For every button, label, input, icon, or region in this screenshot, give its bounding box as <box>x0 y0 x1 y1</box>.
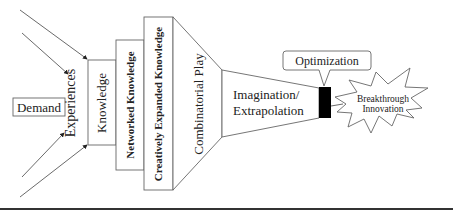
input-arrow-2 <box>22 33 68 74</box>
optimization-label: Optimization <box>295 54 358 68</box>
breakthrough-label-line1: Breakthrough <box>357 94 409 104</box>
block-to-star-connector <box>331 104 343 106</box>
demand-label: Demand <box>17 100 62 115</box>
imagination-label-line1: Imagination/ <box>233 87 300 102</box>
breakthrough-label-line2: Innovation <box>362 104 403 114</box>
combinatorial-play-label: Combinatorial Play <box>191 53 206 155</box>
creatively-expanded-knowledge-label: Creatively Expanded Knowledge <box>152 27 164 182</box>
input-arrow-3 <box>22 133 64 177</box>
innovation-funnel-diagram: Demand Experiences Knowledge Networked K… <box>0 0 453 210</box>
bottom-rule <box>0 208 453 210</box>
experiences-label: Experiences <box>63 69 78 137</box>
imagination-label-line2: Extrapolation <box>233 103 304 118</box>
input-arrow-1 <box>20 10 87 59</box>
networked-knowledge-label: Networked Knowledge <box>124 51 136 158</box>
knowledge-label: Knowledge <box>94 73 109 133</box>
input-arrow-4 <box>20 145 87 197</box>
optimization-block <box>319 87 331 118</box>
